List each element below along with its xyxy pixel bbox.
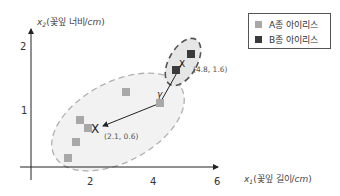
y-tick-2: 2 [20,41,26,52]
x-axis-label: x1(꽃잎 길이/cm) [243,173,312,185]
legend-swatch-b [255,36,262,43]
centroid-a-marker: X [91,122,99,136]
centroid-b-label: (4.8, 1.6) [193,65,228,74]
centroid-b-marker: X [179,59,185,69]
point-a-gamma [156,99,164,107]
legend-label-a: A종 아이리스 [269,18,318,31]
point-a [76,116,84,124]
point-a [72,138,80,146]
y-axis-label: x2(꽃잎 너비/cm) [36,16,105,28]
centroid-a-label: (2.1, 0.6) [104,132,139,141]
point-a [64,154,72,162]
x-tick-6: 6 [214,176,220,187]
point-a [122,88,130,96]
legend: A종 아이리스 B종 아이리스 [248,13,331,49]
point-b [187,50,195,58]
x-tick-4: 4 [150,176,156,187]
legend-swatch-a [255,21,262,28]
legend-label-b: B종 아이리스 [269,33,318,46]
y-tick-1: 1 [21,105,27,116]
gamma-label: γ [157,89,163,99]
legend-item-b: B종 아이리스 [255,32,324,47]
legend-item-a: A종 아이리스 [255,17,324,32]
x-tick-2: 2 [87,176,93,187]
